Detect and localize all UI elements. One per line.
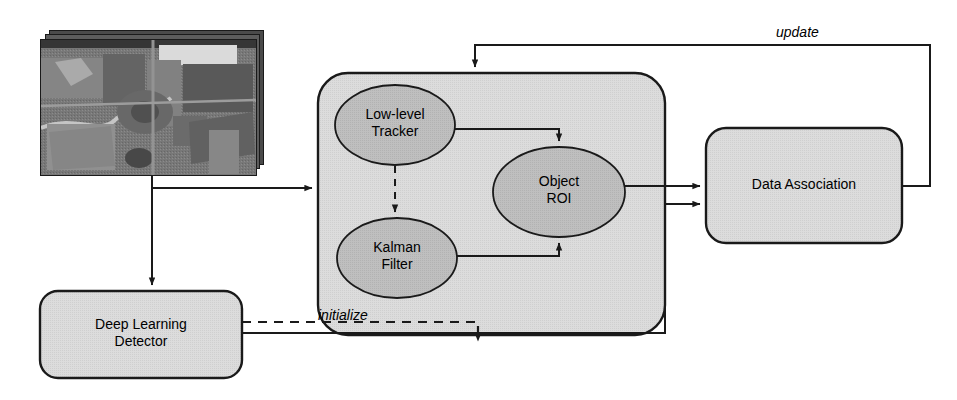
object-roi[interactable] bbox=[493, 147, 625, 237]
diagram-vector-layer bbox=[0, 0, 957, 400]
deep-learning-detector[interactable] bbox=[40, 291, 242, 378]
kalman-filter[interactable] bbox=[337, 218, 457, 298]
edge-images-to-tracker bbox=[152, 176, 312, 188]
update-edge-label: update bbox=[776, 24, 819, 40]
diagram-canvas: Low-level Tracker Kalman Filter Object R… bbox=[0, 0, 957, 400]
initialize-edge-label: initialize bbox=[318, 307, 368, 323]
data-association[interactable] bbox=[706, 128, 902, 243]
low-level-tracker[interactable] bbox=[335, 85, 455, 165]
